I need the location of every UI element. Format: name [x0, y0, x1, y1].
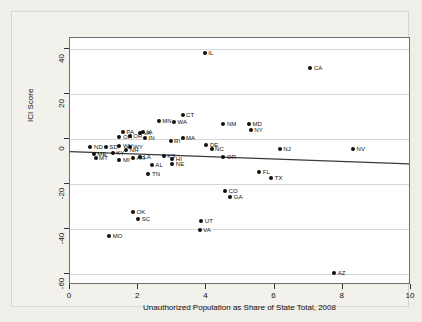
gridline-y-0 — [70, 139, 409, 140]
figure-root: ICI Score 40200-20-40-60 0246810 ILCACTM… — [0, 0, 422, 322]
point-label-MA: MA — [186, 135, 195, 141]
scatter-point-IL — [203, 51, 207, 55]
point-label-FL: FL — [263, 169, 270, 175]
y-tick-label: -20 — [57, 183, 66, 203]
point-label-SC: SC — [142, 216, 151, 222]
chart-card: ICI Score 40200-20-40-60 0246810 ILCACTM… — [11, 11, 409, 307]
scatter-point-MT — [94, 156, 98, 160]
plot-area: ILCACTMNWANMMDNYPAIAVAORINMARIDENCNJNVND… — [69, 37, 410, 284]
scatter-point-AZ — [332, 271, 336, 275]
scatter-point-ME — [92, 152, 96, 156]
scatter-point-NE — [170, 162, 174, 166]
scatter-point-SC — [136, 217, 140, 221]
x-tick-label: 8 — [330, 291, 354, 300]
scatter-point-SD — [104, 145, 108, 149]
scatter-point-MD — [247, 122, 251, 126]
point-label-NV: NV — [357, 146, 366, 152]
scatter-point-RI — [169, 139, 173, 143]
x-tick-mark — [205, 284, 206, 289]
y-tick-label: 0 — [57, 139, 66, 159]
point-label-WA: WA — [178, 119, 188, 125]
gridline-y--60 — [70, 274, 409, 275]
point-label-NC: NC — [215, 146, 224, 152]
point-label-AL: AL — [155, 162, 163, 168]
x-tick-label: 6 — [262, 291, 286, 300]
scatter-point-KS — [162, 154, 166, 158]
point-label-NM: NM — [227, 121, 237, 127]
point-label-OK: OK — [137, 209, 146, 215]
point-label-MO: MO — [113, 233, 123, 239]
gridline-y-20 — [70, 94, 409, 95]
scatter-point-WV — [117, 144, 121, 148]
scatter-point-DE — [204, 143, 208, 147]
scatter-point-OK — [131, 210, 135, 214]
point-label-MI: MI — [123, 157, 130, 163]
gridline-y--20 — [70, 184, 409, 185]
point-label-NY: NY — [254, 127, 263, 133]
x-tick-label: 0 — [57, 291, 81, 300]
point-label-TN: TN — [152, 171, 160, 177]
point-label-AZ: AZ — [338, 270, 346, 276]
point-label-NH: NH — [130, 147, 139, 153]
point-label-NJ: NJ — [283, 146, 291, 152]
point-label-OR: OR — [133, 133, 142, 139]
scatter-point-HI — [170, 157, 174, 161]
point-label-MN: MN — [162, 118, 172, 124]
scatter-point-LA — [138, 155, 142, 159]
point-label-VA: VA — [203, 227, 211, 233]
scatter-point-KY — [111, 151, 115, 155]
scatter-point-FL — [257, 170, 261, 174]
scatter-point-NH — [124, 148, 128, 152]
scatter-point-VA — [198, 228, 202, 232]
gridline-y--40 — [70, 229, 409, 230]
point-label-ND: ND — [94, 144, 103, 150]
scatter-point-IN — [143, 136, 147, 140]
scatter-point-MN — [157, 119, 161, 123]
scatter-point-MI — [117, 158, 121, 162]
scatter-point-NJ — [278, 147, 282, 151]
x-tick-label: 10 — [398, 291, 422, 300]
scatter-point-UT — [199, 219, 203, 223]
point-label-OR: OR — [227, 154, 236, 160]
scatter-point-CO — [223, 189, 227, 193]
x-tick-mark — [342, 284, 343, 289]
scatter-point-WA — [172, 120, 176, 124]
y-tick-label: 40 — [57, 49, 66, 69]
scatter-point-OR — [221, 155, 225, 159]
x-tick-mark — [137, 284, 138, 289]
point-label-IL: IL — [208, 50, 213, 56]
scatter-point-AL — [150, 163, 154, 167]
gridline-y-40 — [70, 49, 409, 50]
x-tick-mark — [274, 284, 275, 289]
point-label-OH: OH — [123, 134, 132, 140]
y-tick-label: -40 — [57, 228, 66, 248]
x-tick-mark — [69, 284, 70, 289]
scatter-point-GA — [228, 195, 232, 199]
x-tick-mark — [410, 284, 411, 289]
x-axis-label: Unauthorized Population as Share of Stat… — [69, 303, 410, 312]
scatter-point-NV — [351, 147, 355, 151]
point-label-KY: KY — [116, 150, 124, 156]
scatter-point-NM — [221, 122, 225, 126]
scatter-point-MO — [107, 234, 111, 238]
scatter-point-NY — [249, 128, 253, 132]
point-label-CO: CO — [229, 188, 238, 194]
scatter-point-TN — [146, 172, 150, 176]
scatter-point-TX — [269, 176, 273, 180]
point-label-GA: GA — [234, 194, 243, 200]
x-tick-label: 4 — [193, 291, 217, 300]
scatter-point-NC — [210, 147, 214, 151]
point-label-CT: CT — [186, 112, 194, 118]
y-tick-label: 20 — [57, 94, 66, 114]
scatter-point-AR — [131, 156, 135, 160]
point-label-LA: LA — [143, 154, 151, 160]
scatter-point-CA — [308, 66, 312, 70]
scatter-point-MA — [181, 136, 185, 140]
x-tick-label: 2 — [125, 291, 149, 300]
point-label-TX: TX — [275, 175, 283, 181]
scatter-point-ND — [88, 145, 92, 149]
point-label-RI: RI — [174, 138, 180, 144]
point-label-UT: UT — [205, 218, 213, 224]
point-label-IN: IN — [149, 135, 155, 141]
point-label-CA: CA — [314, 65, 323, 71]
